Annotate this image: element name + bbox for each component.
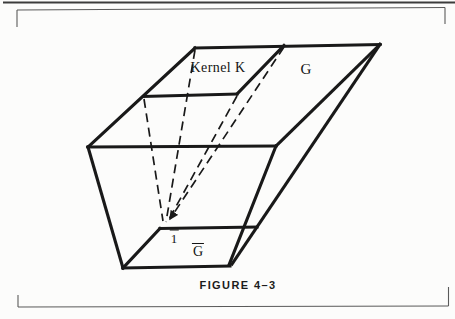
front-right-edge <box>229 146 276 265</box>
quotient-gbar-text: G <box>192 243 204 259</box>
top-face-front-edge <box>88 146 276 147</box>
bottom-face-back-edge <box>160 227 257 229</box>
figure-4-3-diagram <box>0 0 455 319</box>
quotient-gbar-label: G <box>192 243 204 259</box>
bottom-front-edge <box>123 266 230 268</box>
identity-1bar-label: 1 <box>170 230 179 245</box>
frame-top-line <box>17 8 445 11</box>
group-g-label: G <box>301 62 312 77</box>
top-back-edge <box>195 45 380 49</box>
kernel-k-label: Kernel K <box>191 61 246 75</box>
top-face-left-edge <box>88 48 195 147</box>
kernel-front-edge <box>144 94 237 97</box>
identity-1bar-text: 1 <box>170 230 179 245</box>
top-face-right-edge <box>276 45 380 147</box>
bottom-face-left-edge <box>123 229 160 269</box>
left-silhouette-edge <box>88 147 123 268</box>
projection-line-from-front-left <box>144 99 163 221</box>
projection-line-from-front-right <box>168 96 237 221</box>
prism-solid-edges <box>88 45 380 269</box>
frame-bottom-line <box>18 306 449 307</box>
figure-page: Kernel K G 1 G FIGURE 4–3 <box>0 0 455 319</box>
projection-line-from-back-left <box>166 50 195 222</box>
figure-caption: FIGURE 4–3 <box>200 279 277 291</box>
